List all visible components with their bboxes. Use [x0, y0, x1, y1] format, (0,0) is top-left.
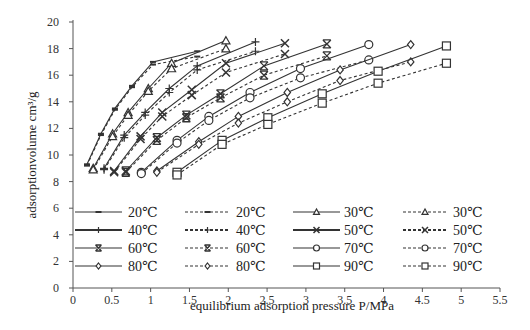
- legend-label: 50℃: [344, 223, 374, 238]
- marker-x-icon: [281, 39, 289, 47]
- legend-label: 90℃: [344, 259, 374, 274]
- legend-label: 50℃: [453, 223, 483, 238]
- x-tick-label: 5: [458, 293, 464, 307]
- marker-square-icon: [442, 42, 450, 50]
- marker-diamond-icon: [408, 41, 414, 49]
- marker-square-icon: [264, 120, 272, 128]
- marker-circle-icon: [205, 116, 213, 124]
- legend-label: 70℃: [344, 241, 374, 256]
- legend-item-40c-dashed: 40℃: [185, 223, 266, 238]
- marker-square-icon: [374, 67, 382, 75]
- marker-x-icon: [158, 108, 166, 116]
- marker-x-icon: [422, 227, 428, 233]
- y-tick-label: 18: [47, 42, 59, 56]
- marker-square-icon: [318, 90, 326, 98]
- marker-x-icon: [281, 50, 289, 58]
- marker-circle-icon: [422, 245, 428, 251]
- marker-circle-icon: [137, 170, 145, 178]
- legend-label: 60℃: [128, 241, 158, 256]
- marker-circle-icon: [173, 139, 181, 147]
- x-tick-label: 4.5: [415, 293, 430, 307]
- marker-asterisk-icon: [260, 71, 268, 79]
- marker-triangle-icon: [222, 45, 230, 52]
- legend-item-60c-solid: 60℃: [75, 241, 158, 256]
- marker-plus-icon: [100, 166, 108, 174]
- marker-square-icon: [314, 263, 320, 269]
- legend-label: 40℃: [236, 223, 266, 238]
- marker-plus-icon: [205, 227, 211, 233]
- x-tick-label: 5.5: [493, 293, 508, 307]
- marker-triangle-icon: [314, 209, 320, 214]
- y-tick-label: 0: [53, 281, 59, 295]
- marker-square-icon: [422, 263, 428, 269]
- marker-x-icon: [188, 91, 196, 99]
- legend-label: 80℃: [128, 259, 158, 274]
- legend-item-60c-dashed: 60℃: [185, 241, 266, 256]
- axes: 0246810121416182000.511.522.533.544.555.…: [47, 15, 508, 307]
- marker-diamond-icon: [284, 98, 290, 106]
- marker-x-icon: [110, 167, 118, 175]
- y-tick-label: 20: [47, 15, 59, 29]
- series-30c-solid: [89, 37, 230, 172]
- marker-plus-icon: [251, 38, 259, 46]
- marker-triangle-icon: [222, 37, 230, 44]
- legend-item-30c-solid: 30℃: [293, 205, 374, 220]
- marker-circle-icon: [246, 94, 254, 102]
- legend-item-50c-dashed: 50℃: [403, 223, 483, 238]
- legend-item-50c-solid: 50℃: [293, 223, 374, 238]
- legend-label: 20℃: [236, 205, 266, 220]
- plot-series: [84, 37, 450, 179]
- y-tick-label: 8: [53, 175, 59, 189]
- y-tick-label: 4: [53, 228, 59, 242]
- y-axis-title: adsorptionvolume cm³/g: [24, 91, 39, 219]
- legend-label: 90℃: [453, 259, 483, 274]
- x-axis-title: equilibrium adsorption pressure P/MPa: [190, 298, 394, 313]
- marker-asterisk-icon: [323, 40, 331, 48]
- marker-square-icon: [173, 171, 181, 179]
- marker-triangle-icon: [422, 209, 428, 214]
- marker-diamond-icon: [284, 88, 290, 96]
- legend-label: 80℃: [236, 259, 266, 274]
- legend-item-30c-dashed: 30℃: [403, 205, 483, 220]
- series-20c-solid: [84, 51, 200, 164]
- marker-square-icon: [318, 99, 326, 107]
- x-tick-label: 0: [70, 293, 76, 307]
- legend-item-70c-dashed: 70℃: [403, 241, 483, 256]
- marker-x-icon: [110, 168, 118, 176]
- legend-item-20c-solid: 20℃: [75, 205, 158, 220]
- marker-circle-icon: [296, 65, 304, 73]
- marker-x-icon: [222, 69, 230, 77]
- marker-asterisk-icon: [260, 62, 268, 70]
- y-tick-label: 6: [53, 201, 59, 215]
- marker-diamond-icon: [205, 263, 210, 269]
- marker-circle-icon: [296, 74, 304, 82]
- legend-item-70c-solid: 70℃: [293, 241, 374, 256]
- legend-item-90c-dashed: 90℃: [403, 259, 483, 274]
- legend-item-80c-dashed: 80℃: [185, 259, 266, 274]
- x-tick-label: 0.5: [104, 293, 119, 307]
- y-tick-label: 16: [47, 68, 59, 82]
- legend-item-40c-solid: 40℃: [75, 223, 158, 238]
- marker-square-icon: [374, 79, 382, 87]
- y-tick-label: 12: [47, 121, 59, 135]
- adsorption-isotherm-chart: 0246810121416182000.511.522.533.544.555.…: [0, 0, 530, 330]
- y-tick-label: 2: [53, 254, 59, 268]
- legend-label: 20℃: [128, 205, 158, 220]
- marker-circle-icon: [314, 245, 320, 251]
- marker-square-icon: [218, 140, 226, 148]
- y-tick-label: 10: [47, 148, 59, 162]
- marker-x-icon: [158, 112, 166, 120]
- marker-diamond-icon: [235, 119, 241, 127]
- legend-item-20c-dashed: 20℃: [185, 205, 266, 220]
- marker-square-icon: [442, 59, 450, 67]
- marker-plus-icon: [96, 227, 102, 233]
- y-tick-label: 14: [47, 95, 59, 109]
- legend-label: 70℃: [453, 241, 483, 256]
- marker-diamond-icon: [337, 66, 343, 74]
- legend-item-90c-solid: 90℃: [293, 259, 374, 274]
- marker-circle-icon: [365, 41, 373, 49]
- marker-diamond-icon: [337, 77, 343, 85]
- marker-diamond-icon: [96, 263, 101, 269]
- legend-label: 30℃: [344, 205, 374, 220]
- legend-label: 60℃: [236, 241, 266, 256]
